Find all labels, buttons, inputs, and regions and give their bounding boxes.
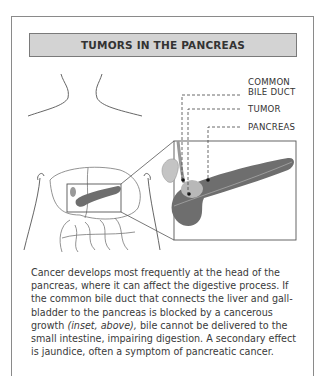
torso-outline (24, 74, 160, 250)
caption-italic: (inset, above), (67, 320, 136, 331)
label-bile-duct-line2: BILE DUCT (248, 87, 295, 97)
label-tumor: TUMOR (248, 104, 281, 114)
gallbladder-small (70, 187, 76, 197)
label-common-bile-duct: COMMON BILE DUCT (248, 77, 295, 97)
label-pancreas: PANCREAS (248, 122, 295, 132)
pancreas-small (76, 186, 121, 207)
label-bile-duct-line1: COMMON (248, 77, 295, 87)
tumor (181, 180, 203, 198)
organs-outline (50, 167, 140, 252)
figure-caption: Cancer develops most frequently at the h… (31, 266, 301, 358)
